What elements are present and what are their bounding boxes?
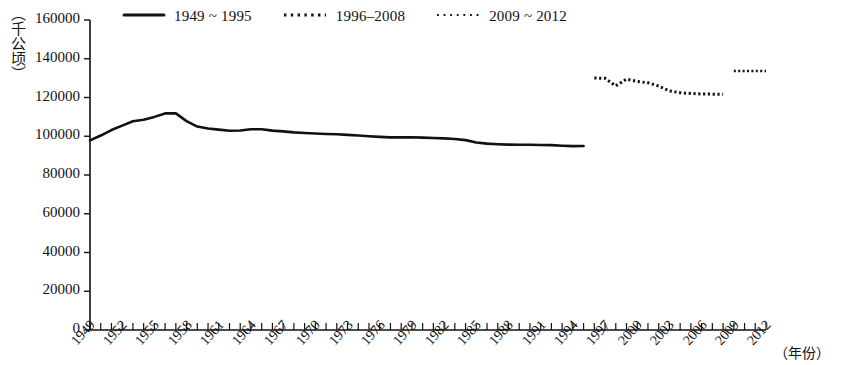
data-series-1 <box>90 113 584 146</box>
chart-container: （千公顷） 0200004000060000800001000001200001… <box>0 0 844 365</box>
plot-area <box>0 0 844 365</box>
data-series-2 <box>594 78 723 94</box>
